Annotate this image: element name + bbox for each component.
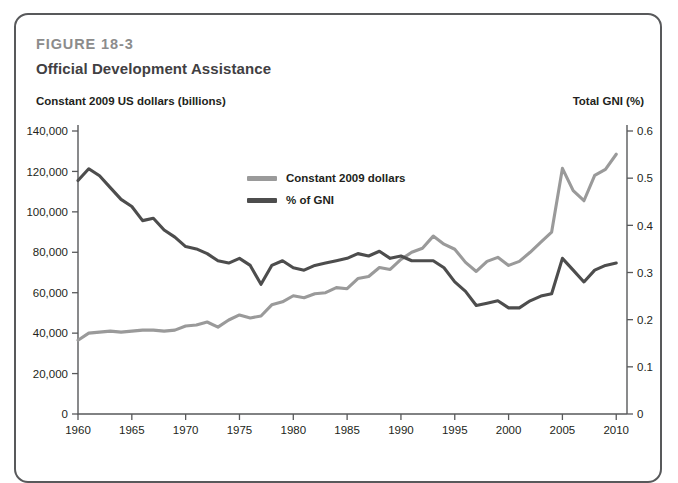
figure-label: FIGURE 18-3 bbox=[36, 36, 134, 52]
figure-card: FIGURE 18-3 Official Development Assista… bbox=[14, 13, 662, 483]
right-axis-title: Total GNI (%) bbox=[573, 95, 644, 107]
legend-label-constant-dollars: Constant 2009 dollars bbox=[286, 172, 406, 184]
legend-swatch-pct-gni bbox=[247, 198, 277, 203]
chart-legend: Constant 2009 dollars % of GNI bbox=[247, 167, 457, 211]
figure-title: Official Development Assistance bbox=[36, 60, 271, 77]
legend-item-pct-gni: % of GNI bbox=[247, 189, 457, 211]
legend-swatch-constant-dollars bbox=[247, 176, 277, 181]
left-axis-title: Constant 2009 US dollars (billions) bbox=[36, 95, 226, 107]
legend-item-constant-dollars: Constant 2009 dollars bbox=[247, 167, 457, 189]
legend-label-pct-gni: % of GNI bbox=[286, 194, 334, 206]
